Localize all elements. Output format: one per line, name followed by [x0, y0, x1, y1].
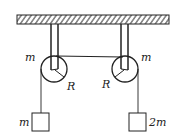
left-pulley-support [51, 24, 58, 70]
right-block [129, 113, 146, 131]
left-block-mass-label: m [19, 116, 29, 129]
right-pulley-mass-label: m [141, 51, 151, 64]
left-radius-label: R [66, 80, 75, 93]
connecting-string [56, 56, 123, 57]
right-radius-label: R [101, 78, 110, 91]
right-pulley-support [121, 24, 128, 70]
left-pulley-mass-label: m [25, 51, 35, 64]
left-block [32, 113, 49, 131]
ceiling [17, 15, 169, 24]
right-block-mass-label: 2m [148, 116, 166, 129]
left-radius-line [55, 70, 64, 77]
pulley-system-diagram: m m R R m 2m [0, 0, 179, 138]
right-radius-line [115, 70, 124, 77]
